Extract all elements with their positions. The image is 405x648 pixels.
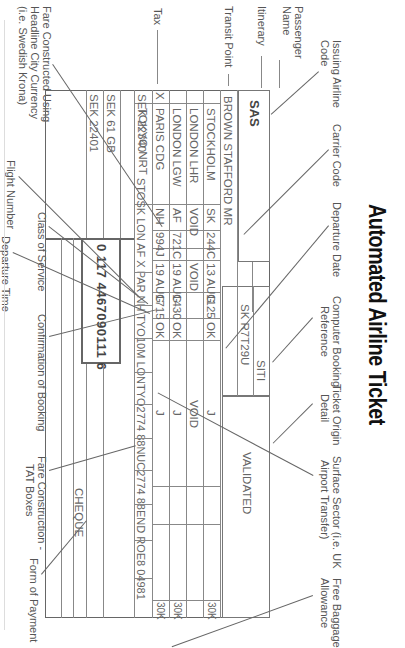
label-issuing-airline-code: Issuing AirlineCode xyxy=(319,40,343,108)
label-passenger-name: PassengerName xyxy=(281,6,305,59)
label-flight-number: Flight Number xyxy=(5,160,17,229)
tax-leader xyxy=(157,30,158,84)
leader-origin-detail xyxy=(273,403,313,443)
city: LONDON LHR xyxy=(188,108,200,183)
divider xyxy=(73,238,74,618)
fare-basis: J xyxy=(154,410,166,416)
departure-time: 1125 xyxy=(205,294,217,319)
divider xyxy=(153,486,221,487)
baggage-allowance: 30K xyxy=(171,602,183,620)
label-departure-date: Departure Date xyxy=(331,202,343,277)
booking-status: OK xyxy=(154,322,166,339)
divider xyxy=(103,90,104,238)
divider xyxy=(152,90,153,618)
divider xyxy=(135,504,153,505)
carrier-code: AF xyxy=(171,208,183,223)
city: LONDON LGW xyxy=(171,108,183,187)
divider xyxy=(135,338,153,339)
ticket-origin-detail: SITI xyxy=(255,360,267,381)
divider xyxy=(153,524,221,525)
flight-number: 721 xyxy=(171,232,183,251)
label-tax: Tax xyxy=(152,8,164,25)
departure-date: VOID xyxy=(188,263,200,291)
flight-number: 994 xyxy=(154,232,166,251)
booking-status: OK xyxy=(171,322,183,339)
booking-status: OK xyxy=(205,322,217,339)
city: PARIS CDG xyxy=(154,108,166,170)
fare-amount: SEK 22340 xyxy=(136,94,148,152)
passenger-leader xyxy=(279,60,280,88)
carrier-code: VOID xyxy=(188,208,200,236)
divider xyxy=(135,578,153,579)
class-of-service: C xyxy=(171,251,183,259)
divider xyxy=(61,238,62,618)
carrier-code: SK xyxy=(205,208,217,223)
divider xyxy=(103,364,104,618)
baggage-allowance: 30K xyxy=(154,602,166,620)
departure-time: 1715 xyxy=(154,294,166,320)
booking-reference: SK R7T29U xyxy=(239,304,251,365)
label-surface-sector: Surface Sector (i.e. UKAirport Transfer) xyxy=(319,456,343,569)
baggage-allowance: 30K xyxy=(205,602,217,620)
diagram-title: Automated Airline Ticket xyxy=(363,204,391,425)
divider xyxy=(135,305,153,306)
divider xyxy=(153,260,221,261)
label-form-of-payment: Form of Payment xyxy=(28,558,40,642)
total-amount: SEK 22401 xyxy=(88,94,100,152)
leader-booking-reference xyxy=(272,317,313,362)
class-of-service: J xyxy=(154,251,166,257)
divider xyxy=(169,90,170,618)
divider xyxy=(153,230,221,231)
label-departure-time: Departure Time xyxy=(0,236,12,312)
passenger-name: BROWN STAFFORD MR xyxy=(222,96,234,225)
departure-time: 1430 xyxy=(171,294,183,320)
flight-number: 244 xyxy=(205,232,217,251)
leader-issuing-airline xyxy=(271,71,319,115)
divider xyxy=(135,404,153,405)
transit-leader xyxy=(228,74,229,86)
label-free-baggage-allowance: Free BaggageAllowance xyxy=(319,578,343,648)
label-computer-booking-reference: Computer BookingReference xyxy=(319,296,343,387)
divider xyxy=(237,90,238,396)
fare-calculation: STOSK LON AF X PAR NH TYO10M LONTYO2774 … xyxy=(135,178,147,600)
divider xyxy=(86,364,87,618)
divider xyxy=(135,470,153,471)
label-itinerary: Itinerary xyxy=(256,6,268,46)
divider xyxy=(135,272,153,273)
divider xyxy=(153,340,221,341)
fare-basis: J xyxy=(171,410,183,416)
validated-stamp: VALIDATED xyxy=(241,452,253,514)
divider xyxy=(203,90,204,618)
divider xyxy=(135,372,153,373)
divider xyxy=(220,90,221,618)
class-of-service: C xyxy=(205,251,217,259)
fare-basis: J xyxy=(205,410,217,416)
label-carrier-code: Carrier Code xyxy=(331,124,343,187)
city: STOCKHOLM xyxy=(205,108,217,181)
divider xyxy=(253,286,254,396)
divider xyxy=(186,90,187,618)
divider xyxy=(135,540,153,541)
issuing-airline-code: SAS xyxy=(248,100,260,127)
label-transit-point: Transit Point xyxy=(223,6,235,67)
divider xyxy=(135,438,153,439)
divider xyxy=(153,600,221,601)
page-edge xyxy=(4,20,5,630)
transit-marker: X xyxy=(154,92,166,100)
label-ticket-origin-detail: Ticket OriginDetail xyxy=(319,384,343,445)
itinerary-leader xyxy=(261,56,262,88)
